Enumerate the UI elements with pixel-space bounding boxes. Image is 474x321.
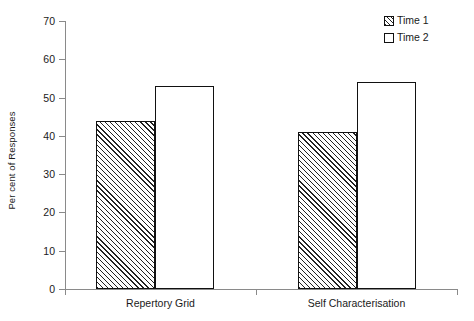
y-tick-label-70: 70 [3, 16, 55, 26]
bar-self-characterisation-time-2 [357, 82, 416, 289]
legend-label-time-2: Time 2 [397, 32, 429, 43]
y-tick-30 [59, 174, 66, 175]
y-tick-label-20-wrap: 20 [0, 207, 55, 217]
y-tick-label-0: 0 [3, 284, 55, 294]
y-axis-line [65, 21, 66, 290]
x-tick-start [65, 289, 66, 295]
bar-chart: Per cent of Responses 0 10 20 30 40 50 [0, 0, 474, 321]
x-tick-mid [256, 289, 257, 295]
y-tick-label-30: 30 [3, 169, 55, 179]
y-tick-40 [59, 136, 66, 137]
y-tick-10 [59, 251, 66, 252]
legend-item-time-1: Time 1 [384, 13, 470, 28]
y-tick-label-40: 40 [3, 131, 55, 141]
plot-area: 0 10 20 30 40 50 60 70 [0, 0, 474, 321]
bar-repertory-grid-time-1 [96, 121, 155, 290]
legend: Time 1 Time 2 [384, 13, 470, 47]
legend-item-time-2: Time 2 [384, 30, 470, 45]
x-tick-end [457, 289, 458, 295]
y-tick-label-50-wrap: 50 [0, 93, 55, 103]
bar-repertory-grid-time-2 [155, 86, 214, 289]
y-tick-label-30-wrap: 30 [0, 169, 55, 179]
x-category-label-self-characterisation: Self Characterisation [256, 297, 457, 309]
y-tick-label-50: 50 [3, 93, 55, 103]
y-tick-label-10: 10 [3, 246, 55, 256]
y-tick-label-60-wrap: 60 [0, 54, 55, 64]
y-tick-60 [59, 59, 66, 60]
y-tick-label-40-wrap: 40 [0, 131, 55, 141]
y-tick-20 [59, 212, 66, 213]
x-category-label-repertory-grid: Repertory Grid [65, 297, 256, 309]
y-tick-label-0-wrap: 0 [0, 284, 55, 294]
y-tick-50 [59, 98, 66, 99]
y-tick-label-20: 20 [3, 207, 55, 217]
legend-swatch-time-1 [384, 16, 394, 26]
y-tick-label-70-wrap: 70 [0, 16, 55, 26]
legend-label-time-1: Time 1 [397, 15, 429, 26]
y-tick-label-60: 60 [3, 54, 55, 64]
x-axis-line [65, 289, 458, 290]
bar-self-characterisation-time-1 [298, 132, 357, 289]
y-tick-label-10-wrap: 10 [0, 246, 55, 256]
y-tick-70 [59, 21, 66, 22]
legend-swatch-time-2 [384, 33, 394, 43]
